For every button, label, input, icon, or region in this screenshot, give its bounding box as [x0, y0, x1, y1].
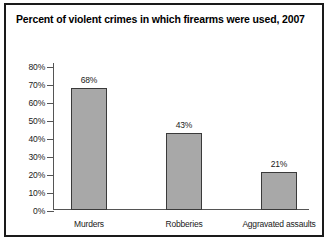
y-axis-tick [47, 103, 54, 104]
bar-murders [71, 88, 107, 210]
plot-area: 80% 70% 60% 50% 40% 30% 20% 10% 0% 68% 4… [6, 5, 322, 235]
bar-value-murders: 68% [71, 75, 107, 85]
category-label-robberies: Robberies [144, 219, 224, 229]
y-axis-tick [47, 193, 54, 194]
bar-value-robberies: 43% [166, 120, 202, 130]
y-axis-tick [47, 175, 54, 176]
bar-robberies [166, 133, 202, 210]
y-axis-tick [47, 211, 54, 212]
y-axis-label: 20% [7, 170, 45, 180]
y-axis-label: 0% [7, 206, 45, 216]
chart-figure: Percent of violent crimes in which firea… [4, 3, 324, 237]
bar-aggravated-assaults [261, 172, 297, 210]
y-axis-tick [47, 67, 54, 68]
y-axis-label: 80% [7, 62, 45, 72]
y-axis-tick [47, 85, 54, 86]
y-axis-tick [47, 157, 54, 158]
y-axis-label: 50% [7, 116, 45, 126]
y-axis-label: 70% [7, 80, 45, 90]
category-label-aggravated-assaults: Aggravated assaults [224, 219, 332, 229]
bar-value-aggravated-assaults: 21% [261, 159, 297, 169]
y-axis-label: 40% [7, 134, 45, 144]
y-axis-label: 10% [7, 188, 45, 198]
category-label-murders: Murders [49, 219, 129, 229]
y-axis-tick [47, 139, 54, 140]
y-axis-label: 60% [7, 98, 45, 108]
y-axis-label: 30% [7, 152, 45, 162]
y-axis-tick [47, 121, 54, 122]
